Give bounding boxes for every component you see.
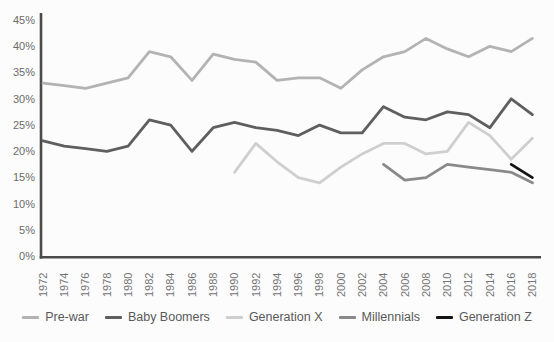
x-axis-tick-label: 2018: [526, 273, 538, 297]
x-axis-tick-label: 1992: [250, 273, 262, 297]
chart-legend: Pre-warBaby BoomersGeneration XMillennia…: [0, 310, 554, 324]
legend-label-generation-x: Generation X: [249, 310, 323, 324]
y-axis-tick-label: 45%: [13, 14, 35, 26]
x-axis-tick-label: 1978: [101, 273, 113, 297]
legend-item-baby-boomers: Baby Boomers: [105, 310, 210, 324]
legend-swatch-millennials: [339, 316, 356, 319]
x-axis-tick-label: 1994: [271, 273, 283, 297]
x-axis-tick-label: 1984: [164, 273, 176, 297]
x-axis-tick-label: 1976: [79, 273, 91, 297]
legend-item-generation-z: Generation Z: [436, 310, 532, 324]
legend-label-generation-z: Generation Z: [459, 310, 532, 324]
x-axis-tick-label: 1986: [186, 273, 198, 297]
legend-swatch-pre-war: [22, 316, 39, 319]
series-line-millennials: [384, 164, 533, 182]
x-axis-tick-label: 1980: [122, 273, 134, 297]
y-axis-tick-label: 30%: [13, 93, 35, 105]
x-axis-tick-label: 2012: [462, 273, 474, 297]
legend-item-generation-x: Generation X: [226, 310, 323, 324]
x-axis-tick-label: 1990: [228, 273, 240, 297]
line-chart-canvas: 0%5%10%15%20%25%30%35%40%45%197219741976…: [0, 0, 554, 308]
y-axis-tick-label: 40%: [13, 40, 35, 52]
x-axis-tick-label: 2000: [335, 273, 347, 297]
x-axis-tick-label: 2016: [505, 273, 517, 297]
x-axis-tick-label: 2004: [377, 273, 389, 297]
legend-swatch-generation-z: [436, 316, 453, 319]
y-axis-tick-label: 0%: [19, 250, 35, 262]
legend-item-millennials: Millennials: [339, 310, 420, 324]
y-axis-tick-label: 5%: [19, 224, 35, 236]
x-axis-tick-label: 2010: [441, 273, 453, 297]
generations-line-chart-figure: 0%5%10%15%20%25%30%35%40%45%197219741976…: [0, 0, 554, 342]
x-axis-tick-label: 2008: [420, 273, 432, 297]
legend-item-pre-war: Pre-war: [22, 310, 89, 324]
x-axis-tick-label: 1988: [207, 273, 219, 297]
series-line-baby-boomers: [43, 99, 532, 152]
x-axis-tick-label: 2006: [399, 273, 411, 297]
y-axis-tick-label: 35%: [13, 66, 35, 78]
y-axis-tick-label: 15%: [13, 171, 35, 183]
series-line-pre-war: [43, 38, 532, 88]
legend-label-millennials: Millennials: [362, 310, 420, 324]
x-axis-tick-label: 2014: [484, 273, 496, 297]
x-axis-tick-label: 1998: [313, 273, 325, 297]
y-axis-tick-label: 25%: [13, 119, 35, 131]
legend-label-pre-war: Pre-war: [45, 310, 89, 324]
legend-swatch-generation-x: [226, 316, 243, 319]
series-line-generation-z: [511, 164, 532, 177]
legend-swatch-baby-boomers: [105, 316, 122, 319]
y-axis-tick-label: 10%: [13, 198, 35, 210]
x-axis-tick-label: 1972: [37, 273, 49, 297]
y-axis-tick-label: 20%: [13, 145, 35, 157]
x-axis-tick-label: 1996: [292, 273, 304, 297]
x-axis-tick-label: 2002: [356, 273, 368, 297]
x-axis-tick-label: 1982: [143, 273, 155, 297]
x-axis-tick-label: 1974: [58, 273, 70, 297]
legend-label-baby-boomers: Baby Boomers: [128, 310, 210, 324]
